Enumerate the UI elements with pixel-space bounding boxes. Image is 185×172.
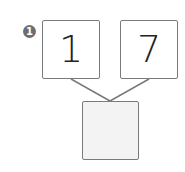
top-right-number-box: 7: [120, 20, 178, 79]
top-right-number: 7: [121, 30, 177, 68]
top-left-number-box: 1: [42, 20, 100, 79]
answer-box[interactable]: [82, 101, 139, 160]
top-left-number: 1: [43, 30, 99, 68]
